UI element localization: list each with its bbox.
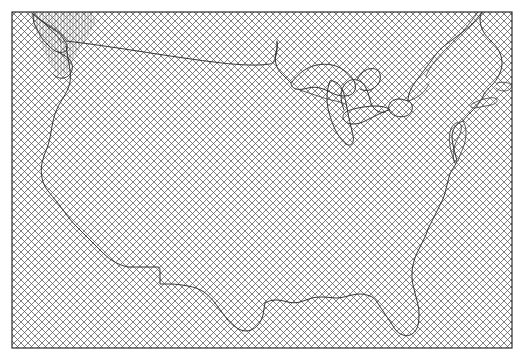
screenshot-root bbox=[0, 0, 524, 361]
map-canvas bbox=[0, 0, 524, 361]
map-hatch-fill bbox=[12, 12, 512, 348]
map-figure bbox=[0, 0, 524, 361]
